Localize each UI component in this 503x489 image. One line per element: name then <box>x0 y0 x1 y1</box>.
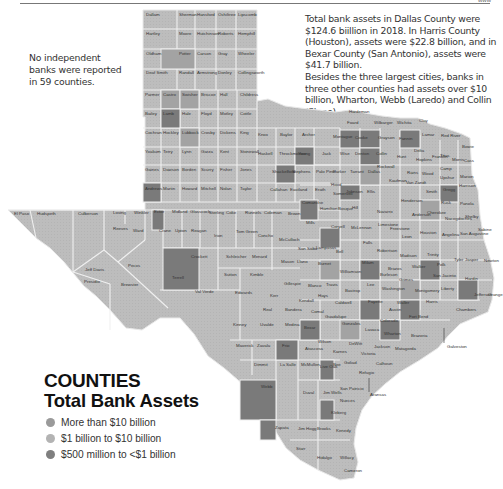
county-label: Sterling <box>209 210 224 215</box>
county-label: El Paso <box>14 211 30 216</box>
svg-text:Dickens: Dickens <box>220 130 236 135</box>
county-label: Gregg <box>443 187 456 192</box>
svg-text:Carson: Carson <box>197 51 212 56</box>
county-label: McCulloch <box>279 237 300 242</box>
county-label: Goliad <box>344 360 357 365</box>
svg-text:Ochiltree: Ochiltree <box>218 12 236 17</box>
svg-text:Garza: Garza <box>201 149 214 154</box>
county-label: Harris <box>426 299 439 304</box>
county-label: Bandera <box>285 307 302 312</box>
county-label: Montague <box>333 134 353 139</box>
svg-text:Scurry: Scurry <box>201 167 214 172</box>
county-label: Tom Green <box>236 229 258 234</box>
county-label: Knox <box>258 132 269 137</box>
county-label: Mason <box>281 259 295 264</box>
county-label: Ward <box>133 228 144 233</box>
svg-text:Sherman: Sherman <box>179 12 197 17</box>
county-label: Refugio <box>359 370 375 375</box>
county-label: Calhoun <box>376 361 393 366</box>
county-label: Cooke <box>355 135 368 140</box>
county-label: Edwards <box>235 290 253 295</box>
county-label: Kimble <box>250 272 264 277</box>
county-label: Atascosa <box>305 346 324 351</box>
county-label: Matagorda <box>395 346 417 351</box>
county-label: Brazoria <box>411 333 428 338</box>
svg-text:Gaines: Gaines <box>145 167 160 172</box>
county-label: Comal <box>311 309 324 314</box>
county-label: Irion <box>214 233 223 238</box>
county-label: Trinity <box>427 252 440 257</box>
svg-text:Donley: Donley <box>218 70 232 75</box>
svg-text:Lubbock: Lubbock <box>182 130 199 135</box>
county-label: Jack <box>322 151 332 156</box>
svg-text:Cochran: Cochran <box>145 130 162 135</box>
county-label: Burleson <box>380 272 398 277</box>
county-label: Denton <box>355 151 370 156</box>
county-label: Jeff Davis <box>85 267 105 272</box>
county-label: Baylor <box>280 132 293 137</box>
county-label: Brown <box>288 211 301 216</box>
county-label: Burnet <box>318 261 332 266</box>
county-label: Hill <box>352 205 358 210</box>
county-label: Tarrant <box>350 169 364 174</box>
county-label: Bastrop <box>345 288 361 293</box>
county-label: Webb <box>261 384 273 389</box>
county-label: Callahan <box>270 187 288 192</box>
county-label: Dimmit <box>254 362 268 367</box>
county-label: Lavaca <box>365 327 380 332</box>
svg-text:Hale: Hale <box>182 111 192 116</box>
svg-text:Lynn: Lynn <box>182 149 192 154</box>
svg-text:Martin: Martin <box>163 186 176 191</box>
county-label: Wharton <box>384 331 401 336</box>
svg-text:Childress: Childress <box>240 92 259 97</box>
county-label: Terrell <box>172 275 184 280</box>
svg-text:Yoakum: Yoakum <box>145 149 161 154</box>
county-label: Delta <box>414 148 425 153</box>
svg-text:Bailey: Bailey <box>145 111 158 116</box>
county-label: Falls <box>363 240 373 245</box>
county-label: Camp <box>440 166 452 171</box>
county-label: Frio <box>282 343 290 348</box>
svg-text:Stonewall: Stonewall <box>240 149 259 154</box>
svg-text:Howard: Howard <box>182 186 198 191</box>
county-label: Rusk <box>441 200 452 205</box>
county-label: Wilson <box>318 339 332 344</box>
svg-text:Hall: Hall <box>220 92 228 97</box>
svg-text:Terry: Terry <box>163 149 174 154</box>
svg-text:Lipscomb: Lipscomb <box>238 12 257 17</box>
county-label: Austin <box>389 307 402 312</box>
legend-subtitle: Total Bank Assets <box>44 390 199 411</box>
county-label: Loving <box>113 210 126 215</box>
county-label: Coke <box>226 210 237 215</box>
county-label: Medina <box>285 322 300 327</box>
county-label: Hopkins <box>416 157 433 162</box>
county-label: Willacy <box>340 455 355 460</box>
county-label: Zapata <box>275 425 289 430</box>
county-label: San Patricio <box>340 386 364 391</box>
county-label: Jasper <box>465 257 479 262</box>
county-label: Fort Bend <box>409 314 429 319</box>
svg-text:Andrews: Andrews <box>145 186 163 191</box>
county-label: Robertson <box>377 248 398 253</box>
legend-item-1b-10b: $1 billion to $10 billion <box>46 430 199 446</box>
svg-text:Mitchell: Mitchell <box>201 186 216 191</box>
county-label: Blanco <box>308 283 322 288</box>
county-label: Parker <box>333 169 346 174</box>
county-label: Hardin <box>465 276 478 281</box>
legend-dot-icon <box>46 418 55 427</box>
county-label: Colorado <box>380 318 398 323</box>
svg-text:Moore: Moore <box>179 31 192 36</box>
county-label: Victoria <box>361 351 376 356</box>
svg-text:Potter: Potter <box>179 51 191 56</box>
county-label: Hays <box>318 293 329 298</box>
county-label: Sutton <box>224 272 237 277</box>
county-label: Presidio <box>84 279 100 284</box>
county-label: Brewster <box>121 282 139 287</box>
county-label: Van Zandt <box>406 180 427 185</box>
svg-text:Kent: Kent <box>220 149 230 154</box>
svg-text:Jones: Jones <box>240 167 253 172</box>
county-label: Starr <box>296 446 306 451</box>
county-label: La Salle <box>280 362 296 367</box>
county-label: Reagan <box>191 228 207 233</box>
svg-text:Hockley: Hockley <box>163 130 179 135</box>
